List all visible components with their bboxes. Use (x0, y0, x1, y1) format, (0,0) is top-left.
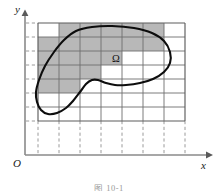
shaded-grid-cell (101, 37, 122, 51)
shaded-grid-cell (38, 51, 59, 65)
shaded-grid-cell (80, 23, 101, 37)
y-axis-arrowhead (22, 10, 29, 17)
origin-label: O (13, 157, 21, 169)
figure-svg: y x O Ω (0, 0, 218, 191)
shaded-grid-cell (80, 51, 101, 65)
region-omega-label: Ω (112, 53, 120, 64)
shaded-grid-cell (59, 51, 80, 65)
shaded-grid-cell (80, 65, 101, 79)
y-axis-label: y (14, 3, 20, 15)
shaded-grid-cell (59, 79, 80, 93)
shaded-grid-cell (122, 37, 143, 51)
x-axis-arrowhead (206, 152, 213, 159)
shaded-grid-cell (59, 37, 80, 51)
shaded-grid-cell (38, 79, 59, 93)
figure-container: y x O Ω 图 10-1 (0, 0, 218, 191)
figure-caption: 图 10-1 (0, 183, 218, 191)
shaded-grid-cell (59, 65, 80, 79)
x-axis-label: x (200, 159, 206, 171)
shaded-grid-cell (80, 37, 101, 51)
